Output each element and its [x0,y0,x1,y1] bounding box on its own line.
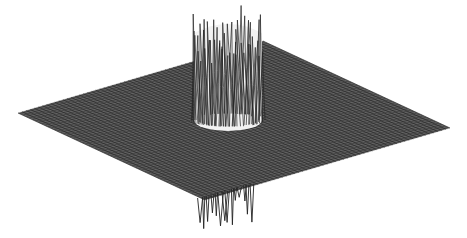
spike-cluster-above [192,6,265,131]
surface-plot [0,0,467,238]
